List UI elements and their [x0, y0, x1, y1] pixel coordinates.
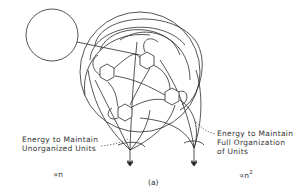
left-leader-line — [101, 139, 128, 146]
heat-sink-left-icon — [127, 161, 133, 166]
unorganized-energy-label: Energy to Maintain Unorganized Units — [22, 135, 98, 153]
figure-caption: (a) — [148, 178, 158, 187]
unit-hexagon-3 — [165, 88, 179, 105]
unit-hexagon-2 — [140, 52, 154, 69]
heat-sink-right-icon — [191, 161, 197, 166]
prop-exponent: 2 — [249, 169, 253, 175]
unit-hexagon-4 — [118, 104, 132, 121]
label-line: Unorganized Units — [22, 144, 98, 153]
prop-base: ∝n — [239, 171, 249, 180]
label-line: Energy to Maintain — [217, 129, 293, 138]
unit-hexagon-1 — [100, 64, 114, 81]
label-line: of Units — [217, 147, 293, 156]
label-line: Energy to Maintain — [22, 135, 98, 144]
energy-organization-diagram — [0, 0, 308, 195]
full-organization-energy-label: Energy to Maintain Full Organization of … — [217, 129, 293, 156]
source-circle — [26, 9, 78, 61]
proportional-n-label: ∝n — [53, 170, 63, 179]
proportional-n-squared-label: ∝n2 — [239, 169, 253, 180]
label-line: Full Organization — [217, 138, 293, 147]
outer-loops — [80, 12, 202, 132]
